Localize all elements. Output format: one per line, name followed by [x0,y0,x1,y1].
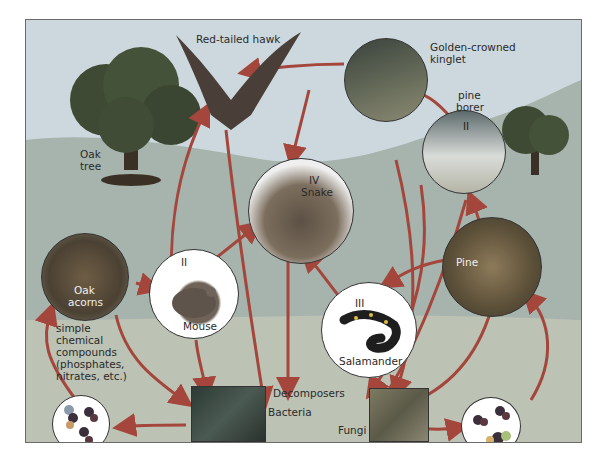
molecule-icon-left [64,405,98,442]
compounds-label-2: chemical [56,334,103,346]
bacteria-label: Bacteria [268,406,312,418]
mouse-label: Mouse [183,320,217,332]
kinglet-label-2: kinglet [430,53,466,65]
snake-label: Snake [301,186,333,198]
fungi-label: Fungi [338,424,366,436]
acorns-label-2: acorns [68,296,103,308]
compounds-label-1: simple [56,322,91,334]
acorns-label-1: Oak [74,284,95,296]
pine-borer-label-1: pine [458,89,481,101]
pine-label: Pine [456,256,478,268]
salamander-label: Salamander [339,355,402,367]
pine-borer-label-2: borer [456,101,484,113]
oak-tree-label-2: tree [80,160,101,172]
pine-borer-level: II [463,120,469,132]
hawk-label: Red-tailed hawk [196,33,280,45]
fungi-image [369,388,429,442]
molecule-icon-right [473,406,511,442]
kinglet-label-1: Golden-crowned [430,41,516,53]
compounds-label-5: nitrates, etc.) [56,370,127,382]
mouse-level: II [181,256,187,268]
compounds-label-3: compounds [56,346,117,358]
snake-level: IV [309,174,319,186]
compounds-label-4: (phosphates, [56,358,124,370]
decomposers-label: Decomposers [273,387,345,399]
oak-tree-label-1: Oak [80,148,101,160]
salamander-level: III [355,297,364,309]
food-web-diagram: Red-tailed hawk Golden-crowned kinglet p… [25,19,582,443]
bacteria-image [191,386,266,442]
